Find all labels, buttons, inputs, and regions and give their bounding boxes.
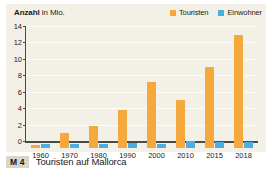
bar-einwohner-1980 — [99, 144, 108, 148]
legend-swatch-touristen — [170, 10, 176, 16]
bar-touristen-2010 — [176, 100, 185, 148]
bar-group: 2018 — [229, 33, 258, 148]
bar-touristen-2000 — [147, 82, 156, 148]
bar-group: 1980 — [84, 33, 113, 148]
y-tick-label: 6 — [18, 87, 22, 96]
legend-item-einwohner: Einwohner — [218, 8, 262, 17]
bar-group: 1960 — [26, 33, 55, 148]
bar-einwohner-1960 — [41, 144, 50, 148]
bar-einwohner-2010 — [186, 141, 195, 148]
chart-panel: Anzahl in Mio. Touristen Einwohner 02468… — [6, 4, 266, 152]
chart-header: Anzahl in Mio. Touristen Einwohner — [6, 4, 266, 24]
chart-figure: Anzahl in Mio. Touristen Einwohner 02468… — [0, 0, 272, 180]
bar-group: 1970 — [55, 33, 84, 148]
bar-touristen-2015 — [205, 67, 214, 148]
y-tick-label: 0 — [18, 137, 22, 146]
bar-touristen-2018 — [234, 35, 243, 148]
bar-group: 1990 — [113, 33, 142, 148]
bar-touristen-1980 — [89, 126, 98, 148]
legend-swatch-einwohner — [218, 10, 224, 16]
caption: M 4 Touristen auf Mallorca — [6, 156, 127, 168]
bar-group: 2015 — [200, 33, 229, 148]
plot-region: 02468101214 1960197019801990200020102015… — [26, 26, 258, 148]
legend-item-touristen: Touristen — [170, 8, 209, 17]
bar-einwohner-1970 — [70, 144, 79, 148]
y-tick-label: 2 — [18, 120, 22, 129]
bar-touristen-1990 — [118, 110, 127, 148]
bar-einwohner-2000 — [157, 144, 166, 148]
y-tick-label: 8 — [18, 71, 22, 80]
y-tick-label: 4 — [18, 104, 22, 113]
legend-label-einwohner: Einwohner — [227, 8, 262, 17]
y-tick-label: 10 — [14, 54, 22, 63]
y-axis-title-strong: Anzahl — [14, 8, 40, 17]
x-tick-label: 2018 — [229, 151, 258, 160]
bar-einwohner-1990 — [128, 143, 137, 148]
caption-badge: M 4 — [6, 156, 29, 168]
y-axis-title-rest: in Mio. — [40, 8, 65, 17]
chart-legend: Touristen Einwohner — [170, 8, 262, 17]
x-tick-label: 2000 — [142, 151, 171, 160]
bar-group: 2010 — [171, 33, 200, 148]
legend-label-touristen: Touristen — [179, 8, 209, 17]
gridline — [26, 26, 258, 27]
x-tick-label: 2015 — [200, 151, 229, 160]
y-axis-title: Anzahl in Mio. — [14, 8, 65, 17]
caption-text: Touristen auf Mallorca — [36, 156, 127, 167]
x-tick-label: 2010 — [171, 151, 200, 160]
y-tick-label: 12 — [14, 38, 22, 47]
bar-einwohner-2018 — [244, 142, 253, 148]
bar-einwohner-2015 — [215, 142, 224, 148]
bar-group: 2000 — [142, 33, 171, 148]
bar-touristen-1960 — [31, 145, 40, 148]
bar-touristen-1970 — [60, 133, 69, 148]
y-tick-mark — [23, 26, 26, 27]
y-tick-label: 14 — [14, 22, 22, 31]
